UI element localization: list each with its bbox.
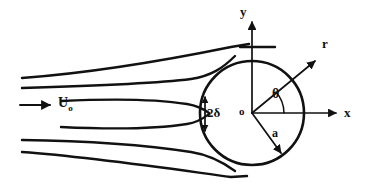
theta-angle-label: θ xyxy=(272,87,279,101)
radius-a-label: a xyxy=(272,127,278,139)
boundary-layer-thickness-label: 2δ xyxy=(207,106,220,119)
freestream-velocity-label: Uo xyxy=(58,96,73,113)
streamline-lower-outer xyxy=(22,152,247,177)
streamline-upper-inner xyxy=(22,56,235,88)
streamline-upper-outer xyxy=(22,44,249,78)
streamline-wake-upper xyxy=(61,100,209,113)
r-vector-label: r xyxy=(322,37,328,50)
fluid-flow-figure: y x r θ o a 2δ Uo xyxy=(0,0,367,186)
origin-label: o xyxy=(239,106,245,117)
streamline-wake-lower xyxy=(61,114,209,128)
freestream-velocity-symbol: U xyxy=(58,95,68,110)
y-axis-label: y xyxy=(240,5,247,18)
freestream-velocity-subscript: o xyxy=(68,103,73,113)
x-axis-label: x xyxy=(344,106,351,119)
figure-canvas xyxy=(0,0,367,186)
